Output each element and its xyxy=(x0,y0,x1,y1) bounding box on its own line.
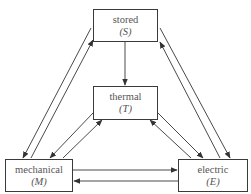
arrow-mechanical-to-thermal xyxy=(63,120,102,158)
node-electric: electric (E) xyxy=(178,159,248,192)
node-stored: stored (S) xyxy=(93,9,158,42)
arrow-electric-to-stored xyxy=(160,42,220,158)
node-electric-label: electric xyxy=(198,164,229,176)
node-mechanical-symbol: (M) xyxy=(31,176,47,188)
node-stored-symbol: (S) xyxy=(119,26,131,38)
energy-conversion-diagram: stored (S) thermal (T) mechanical (M) el… xyxy=(0,0,251,194)
node-stored-label: stored xyxy=(113,14,139,26)
node-mechanical-label: mechanical xyxy=(15,164,63,176)
node-thermal-label: thermal xyxy=(109,91,141,103)
arrow-thermal-to-electric xyxy=(158,113,203,158)
arrow-mechanical-to-stored xyxy=(31,40,93,158)
node-electric-symbol: (E) xyxy=(206,176,219,188)
node-thermal-symbol: (T) xyxy=(119,103,132,115)
node-thermal: thermal (T) xyxy=(93,86,158,120)
node-mechanical: mechanical (M) xyxy=(5,159,73,192)
arrow-stored-to-mechanical xyxy=(23,28,91,158)
